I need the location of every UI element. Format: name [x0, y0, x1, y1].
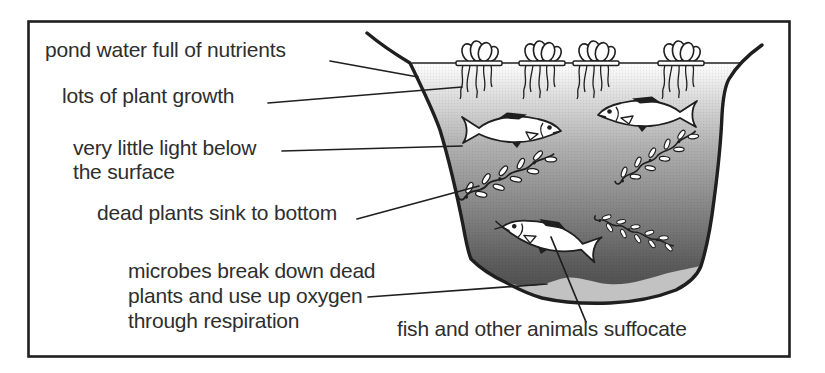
halftone-texture: [410, 63, 737, 303]
pond-eutrophication-diagram: pond water full of nutrients lots of pla…: [0, 0, 825, 373]
leader-line-little-light: [282, 146, 462, 151]
leader-line-nutrients: [330, 61, 418, 77]
label-plant-growth: lots of plant growth: [62, 84, 234, 108]
label-little-light: very little light below the surface: [73, 136, 256, 184]
label-microbes-oxygen: microbes break down dead plants and use …: [128, 258, 375, 333]
label-fish-suffocate: fish and other animals suffocate: [397, 317, 687, 341]
label-dead-plants-sink: dead plants sink to bottom: [97, 201, 337, 225]
label-pond-water-nutrients: pond water full of nutrients: [45, 38, 286, 62]
